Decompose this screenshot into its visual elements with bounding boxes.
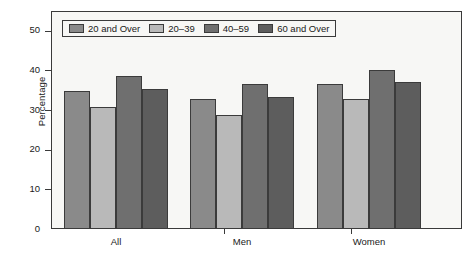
bar-group xyxy=(317,11,421,229)
bar xyxy=(64,91,90,229)
x-axis-tick-label: Men xyxy=(202,236,282,247)
y-axis-tick: 40 xyxy=(0,70,51,71)
y-axis-tick: 50 xyxy=(0,31,51,32)
plot-inner-area xyxy=(51,11,462,229)
legend-entry: 20–39 xyxy=(149,24,194,34)
legend-swatch xyxy=(258,24,273,33)
bar xyxy=(216,115,242,229)
legend-swatch xyxy=(204,24,219,33)
y-axis-tick-label: 50 xyxy=(10,24,40,35)
bar xyxy=(142,89,168,229)
y-axis-tick: 10 xyxy=(0,189,51,190)
y-axis-tick: 0 xyxy=(0,229,51,230)
y-axis-tick-label: 40 xyxy=(10,64,40,75)
y-axis-tick-label: 0 xyxy=(10,223,40,234)
x-axis-tick-mark xyxy=(224,229,225,234)
y-axis-tick-label: 30 xyxy=(10,104,40,115)
bar xyxy=(90,107,116,229)
legend-label: 20 and Over xyxy=(88,24,140,34)
legend-label: 20–39 xyxy=(168,24,194,34)
legend-swatch xyxy=(69,24,84,33)
x-axis-tick-mark xyxy=(351,229,352,234)
bar xyxy=(190,99,216,229)
legend-label: 40–59 xyxy=(223,24,249,34)
bar xyxy=(317,84,343,229)
bar xyxy=(242,84,268,229)
y-axis-tick: 30 xyxy=(0,110,51,111)
bar-group xyxy=(64,11,168,229)
x-axis-tick-label: Women xyxy=(329,236,409,247)
legend-entry: 20 and Over xyxy=(69,24,140,34)
legend-swatch xyxy=(149,24,164,33)
bar xyxy=(268,97,294,229)
bar xyxy=(343,99,369,229)
bar xyxy=(369,70,395,229)
chart-legend: 20 and Over20–3940–5960 and Over xyxy=(62,20,336,37)
bar xyxy=(395,82,421,229)
y-axis-tick: 20 xyxy=(0,150,51,151)
x-axis-tick-label: All xyxy=(76,236,156,247)
bar xyxy=(116,76,142,229)
bar-chart-figure: Percentage 01020304050 AllMenWomen 20 an… xyxy=(0,0,474,255)
legend-entry: 40–59 xyxy=(204,24,249,34)
bar-group xyxy=(190,11,294,229)
legend-label: 60 and Over xyxy=(277,24,329,34)
y-axis-tick-label: 20 xyxy=(10,143,40,154)
y-axis-tick-label: 10 xyxy=(10,183,40,194)
legend-entry: 60 and Over xyxy=(258,24,329,34)
